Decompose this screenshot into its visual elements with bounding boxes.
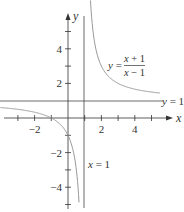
x-axis-label: x [175,111,182,125]
x-axis-arrow-icon [166,116,173,121]
y-tick-label: 4 [57,43,63,55]
svg-text:x − 1: x − 1 [123,67,145,78]
vertical-asymptote-label: x = 1 [87,158,110,170]
horizontal-asymptote-label: y = 1 [161,95,184,107]
curve-left-branch [0,108,79,203]
x-tick-label: 2 [99,123,105,135]
x-tick-label: 4 [132,123,138,135]
function-label: y = x + 1 x − 1 [107,53,145,78]
svg-text:y =: y = [107,59,122,71]
y-axis-label: y [72,9,79,23]
y-tick-label: −4 [50,181,62,193]
x-tick-label: −2 [29,123,41,135]
curve-right-branch [90,0,159,93]
svg-text:x + 1: x + 1 [123,53,145,64]
chart: y x −2 2 4 4 2 −2 −4 y = 1 x = 1 y = x +… [0,0,184,212]
y-tick-label: −2 [50,147,62,159]
y-axis-arrow-icon [66,13,71,20]
y-tick-label: 2 [57,77,63,89]
